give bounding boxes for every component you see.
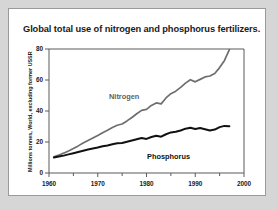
x-tick-label: 1970 [91,180,106,187]
x-tick-label: 1990 [188,180,203,187]
series-label-nitrogen: Nitrogen [109,92,140,101]
x-tick-label: 1980 [139,180,154,187]
figure-card: Global total use of nitrogen and phospho… [8,8,266,196]
plot-area: 02040608019601970198019902000 NitrogenPh… [9,9,267,197]
series-labels-group: NitrogenPhosphorus [109,92,190,161]
ticks-group [45,49,244,177]
line-chart-svg: 02040608019601970198019902000 NitrogenPh… [9,9,267,197]
x-tick-label: 1960 [42,180,57,187]
series-line-phosphorus [54,126,230,158]
y-tick-label: 0 [39,169,43,176]
y-tick-label: 20 [36,138,44,145]
x-tick-label: 2000 [237,180,252,187]
series-label-phosphorus: Phosphorus [147,152,190,161]
series-line-nitrogen [54,50,230,157]
y-tick-label: 60 [36,76,44,83]
data-series-group [54,50,230,158]
y-tick-label: 80 [36,45,44,52]
y-tick-label: 40 [36,107,44,114]
tick-labels-group: 02040608019601970198019902000 [36,45,252,187]
